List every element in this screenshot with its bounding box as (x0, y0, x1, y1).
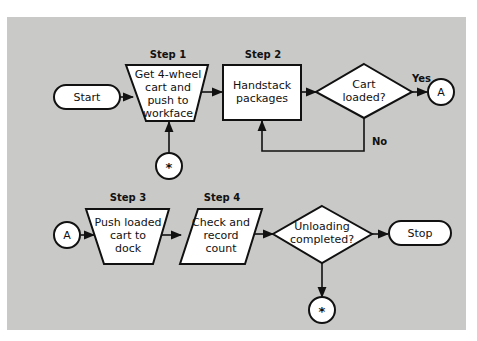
step2-line-1: Handstack (233, 79, 292, 92)
step4-line-2: record (203, 229, 238, 242)
step1-heading: Step 1 (150, 49, 186, 60)
step4-input-output: Step 4 Check and record count (180, 192, 262, 264)
step4-heading: Step 4 (204, 192, 240, 203)
step1-line-2: cart and (145, 81, 191, 94)
step4-line-1: Check and (192, 216, 250, 229)
decision1-line-1: Cart (352, 78, 376, 91)
edge-label-no: No (372, 136, 387, 147)
start-terminator: Start (54, 85, 120, 109)
start-label: Start (74, 91, 102, 104)
step4-line-3: count (205, 242, 237, 255)
decision-cart-loaded: Cart loaded? (316, 64, 412, 118)
step1-line-1: Get 4-wheel (135, 68, 202, 81)
step2-line-2: packages (236, 92, 288, 105)
decision1-line-2: loaded? (342, 91, 385, 104)
step3-heading: Step 3 (110, 192, 146, 203)
decision2-line-2: completed? (290, 233, 354, 246)
connector-a-in-label: A (63, 229, 71, 242)
connector-a-out: A (428, 79, 454, 105)
connector-star-in: * (156, 153, 182, 179)
step1-line-4: workface (143, 107, 193, 120)
decision-unloading-completed: Unloading completed? (273, 206, 372, 263)
stop-label: Stop (407, 227, 432, 240)
stop-terminator: Stop (389, 221, 451, 245)
arrow-decision1-no-loop (262, 118, 364, 151)
edge-label-yes: Yes (411, 73, 431, 84)
connector-a-out-label: A (437, 86, 445, 99)
step3-line-3: dock (115, 242, 142, 255)
step1-manual-operation: Step 1 Get 4-wheel cart and push to work… (126, 49, 208, 121)
flowchart: Start Step 1 Get 4-wheel cart and push t… (0, 0, 477, 341)
step3-line-2: cart to (110, 229, 146, 242)
connector-star-out: * (309, 297, 335, 323)
step2-heading: Step 2 (245, 49, 281, 60)
step1-line-3: push to (147, 94, 188, 107)
asterisk-icon: * (319, 304, 326, 319)
connector-a-in: A (54, 222, 80, 248)
step3-line-1: Push loaded (95, 216, 162, 229)
asterisk-icon: * (166, 160, 173, 175)
decision2-line-1: Unloading (294, 220, 350, 233)
step3-manual-operation: Step 3 Push loaded cart to dock (86, 192, 169, 264)
step2-process: Step 2 Handstack packages (223, 49, 301, 120)
